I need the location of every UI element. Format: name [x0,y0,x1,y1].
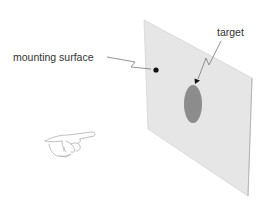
pointing-hand-icon [45,132,95,157]
mounting-surface-leader-line [107,57,151,69]
surface-marker-dot [153,67,158,72]
target-ellipse [184,85,202,123]
target-label: target [217,26,244,38]
mounting-surface-label: mounting surface [13,51,94,63]
diagram-canvas: mounting surface target [0,0,267,205]
